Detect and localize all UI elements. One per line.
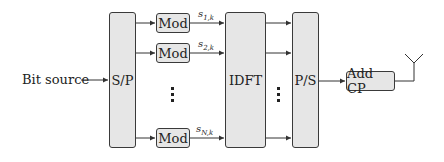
mod-block-1: Mod	[156, 13, 190, 33]
mod-label: Mod	[158, 46, 187, 61]
bit-source-label: Bit source	[22, 72, 89, 87]
ellipsis-dots-idft	[277, 87, 281, 105]
signal-label-1: s1,k	[198, 8, 214, 22]
antenna-icon	[404, 52, 424, 82]
add-cp-label: Add CP	[347, 66, 394, 96]
mod-label: Mod	[158, 131, 187, 146]
sp-block: S/P	[109, 12, 136, 148]
ellipsis-dots-mod	[171, 87, 175, 105]
signal-label-n: sN,k	[196, 123, 213, 137]
idft-block: IDFT	[225, 12, 266, 148]
ps-label: P/S	[294, 73, 316, 88]
idft-label: IDFT	[229, 73, 262, 88]
signal-label-2: s2,k	[198, 38, 214, 52]
mod-block-2: Mod	[156, 43, 190, 63]
add-cp-block: Add CP	[346, 71, 395, 91]
sp-label: S/P	[111, 73, 133, 88]
ps-block: P/S	[292, 12, 319, 148]
mod-label: Mod	[158, 16, 187, 31]
mod-block-n: Mod	[156, 128, 190, 148]
